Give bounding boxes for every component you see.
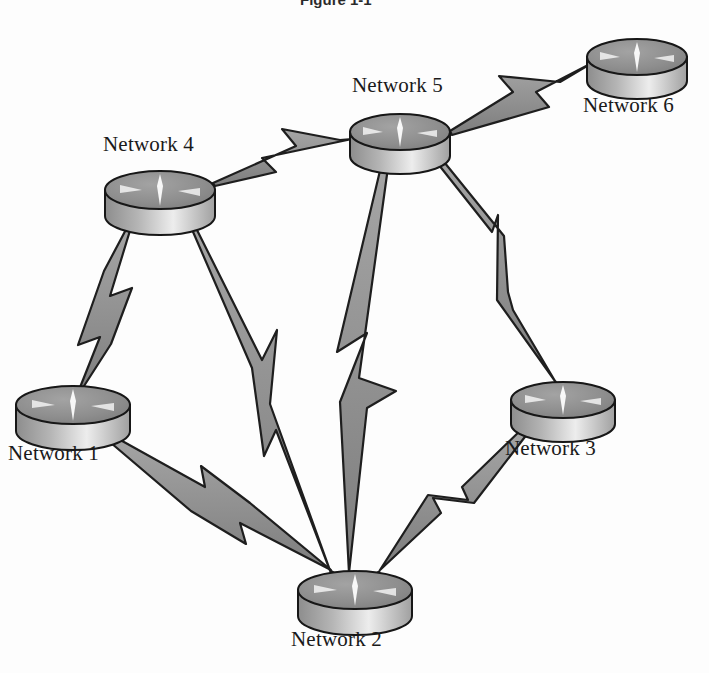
router-node-net2[interactable]: [298, 571, 412, 635]
router-node-net3[interactable]: [511, 382, 615, 442]
router-node-net4[interactable]: [105, 171, 215, 235]
node-label-net4: Network 4: [103, 132, 194, 157]
network-topology-figure: Figure 1-1 Network 1 Network 2 Network 3…: [0, 0, 709, 673]
node-label-net3: Network 3: [505, 436, 596, 461]
router-node-net5[interactable]: [350, 114, 450, 174]
node-label-net1: Network 1: [8, 441, 99, 466]
router-node-net6[interactable]: [587, 39, 687, 99]
node-label-net6: Network 6: [583, 93, 674, 118]
node-label-net5: Network 5: [352, 73, 443, 98]
node-label-net2: Network 2: [291, 627, 382, 652]
